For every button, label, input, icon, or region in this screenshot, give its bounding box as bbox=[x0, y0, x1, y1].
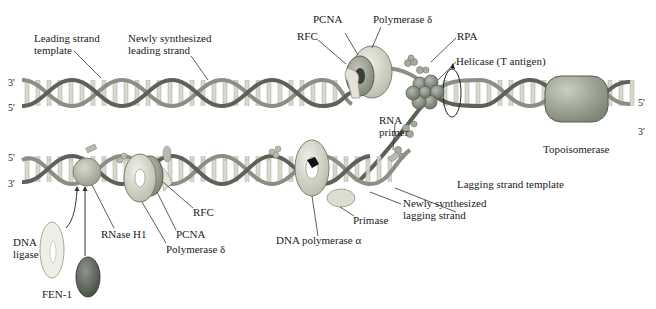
label-polymerase-delta-top: Polymerase δ bbox=[373, 13, 432, 25]
label-primase: Primase bbox=[353, 214, 388, 226]
label-newly-synthesized-lagging-strand: Newly synthesized lagging strand bbox=[403, 197, 486, 221]
parental-duplex bbox=[430, 63, 640, 117]
rnase-h1-shape bbox=[73, 158, 101, 186]
fen1-shape bbox=[76, 257, 100, 297]
replication-fork-diagram: 3' 5' 5' 3' 5' 3' Leading strand templat… bbox=[0, 0, 656, 309]
label-dna-polymerase-alpha: DNA polymerase α bbox=[276, 234, 361, 246]
label-pcna-top: PCNA bbox=[313, 13, 342, 25]
strand-end-lagging-top: 5' bbox=[8, 152, 15, 163]
recruitment-arrows bbox=[66, 190, 85, 256]
label-leading-strand-template: Leading strand template bbox=[34, 32, 100, 56]
label-rna-primer: RNA primer bbox=[379, 114, 408, 138]
label-rnase-h1: RNase H1 bbox=[101, 228, 147, 240]
strand-end-leading-top: 3' bbox=[8, 77, 15, 88]
strand-end-leading-bottom: 5' bbox=[8, 102, 15, 113]
label-lagging-strand-template: Lagging strand template bbox=[457, 178, 564, 190]
label-rfc-top: RFC bbox=[297, 30, 318, 42]
label-polymerase-delta-bottom: Polymerase δ bbox=[166, 243, 225, 255]
label-rpa: RPA bbox=[457, 30, 477, 42]
topoisomerase-shape bbox=[545, 76, 608, 122]
label-dna-ligase: DNA ligase bbox=[13, 236, 39, 260]
label-helicase: Helicase (T antigen) bbox=[456, 55, 546, 67]
leading-polymerase-complex bbox=[345, 46, 392, 98]
label-fen1: FEN-1 bbox=[42, 288, 72, 300]
label-pcna-bottom: PCNA bbox=[176, 228, 205, 240]
label-newly-synthesized-leading-strand: Newly synthesized leading strand bbox=[128, 32, 211, 56]
label-rfc-bottom: RFC bbox=[193, 206, 214, 218]
strand-end-lagging-bottom: 3' bbox=[8, 178, 15, 189]
strand-end-parental-bottom: 3' bbox=[638, 126, 645, 137]
strand-end-parental-top: 5' bbox=[638, 97, 645, 108]
label-topoisomerase: Topoisomerase bbox=[543, 143, 609, 155]
leading-strand-duplex bbox=[22, 80, 352, 106]
